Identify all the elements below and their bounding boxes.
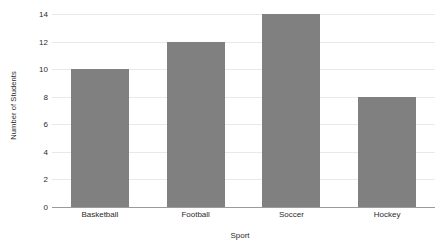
y-axis-title-text: Number of Students <box>9 71 18 140</box>
bar-soccer[interactable] <box>262 14 320 207</box>
bar-basketball[interactable] <box>71 69 129 207</box>
bar-chart: Number of Students 02468101214 Basketbal… <box>0 0 437 250</box>
bar-hockey[interactable] <box>358 97 416 207</box>
y-axis-tick-label: 2 <box>44 175 48 184</box>
y-axis-title: Number of Students <box>2 0 24 210</box>
x-axis-tick-label: Soccer <box>279 210 304 219</box>
x-axis-tick-label: Basketball <box>81 210 118 219</box>
y-axis-tick-label: 4 <box>44 147 48 156</box>
x-axis-tick-label: Football <box>181 210 209 219</box>
x-axis-tick-labels: BasketballFootballSoccerHockey <box>52 210 435 226</box>
plot-area <box>52 14 435 208</box>
y-axis-tick-labels: 02468101214 <box>24 0 50 210</box>
x-axis-line <box>52 207 435 208</box>
bar-football[interactable] <box>167 42 225 207</box>
x-axis-title: Sport <box>50 231 430 240</box>
y-axis-tick-label: 8 <box>44 92 48 101</box>
y-axis-tick-label: 6 <box>44 120 48 129</box>
bars-layer <box>52 14 435 208</box>
y-axis-tick-label: 14 <box>39 10 48 19</box>
y-axis-tick-label: 0 <box>44 203 48 212</box>
y-axis-tick-label: 10 <box>39 65 48 74</box>
y-axis-tick-label: 12 <box>39 37 48 46</box>
x-axis-tick-label: Hockey <box>374 210 401 219</box>
